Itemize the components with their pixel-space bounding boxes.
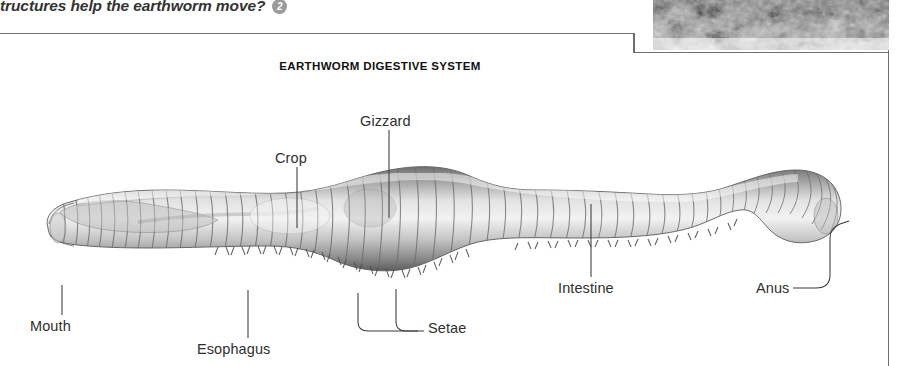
soil-photo-inset: [653, 0, 889, 50]
label-esophagus: Esophagus: [197, 341, 270, 357]
diagram-title: EARTHWORM DIGESTIVE SYSTEM: [0, 60, 760, 72]
worm-anus-tip: [814, 198, 838, 234]
question-line: tructures help the earthworm move? 2: [0, 0, 360, 17]
label-intestine: Intestine: [558, 280, 614, 296]
earthworm-illustration: [18, 150, 878, 310]
label-crop: Crop: [275, 150, 307, 166]
earthworm-drawing: [18, 150, 878, 310]
question-text: tructures help the earthworm move?: [0, 0, 265, 15]
frame-notch-horizontal-edge: [633, 52, 889, 54]
question-number-badge: 2: [272, 0, 287, 14]
label-setae: Setae: [428, 320, 466, 336]
label-mouth: Mouth: [30, 318, 71, 334]
label-gizzard: Gizzard: [360, 113, 411, 129]
label-anus: Anus: [756, 280, 789, 296]
soil-photo-image: [653, 0, 889, 50]
frame-notch-vertical-edge: [633, 33, 635, 53]
